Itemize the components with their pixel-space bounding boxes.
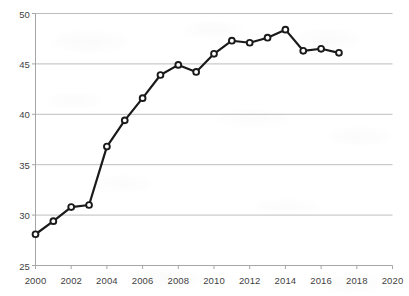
chart-container: 253035404550 200020022004200620082010201…	[0, 0, 409, 296]
x-tick-label-2014: 2014	[275, 275, 297, 286]
data-point-2001	[50, 218, 56, 224]
x-tick-label-2012: 2012	[239, 275, 261, 286]
x-tick-label-2000: 2000	[25, 275, 47, 286]
y-tick-label-25: 25	[8, 260, 30, 271]
x-tick-label-2020: 2020	[382, 275, 404, 286]
data-point-2002	[68, 204, 74, 210]
x-tick-label-2010: 2010	[203, 275, 225, 286]
data-point-2012	[247, 40, 253, 46]
x-tick-label-2002: 2002	[60, 275, 82, 286]
data-point-2010	[211, 51, 217, 57]
data-point-2003	[86, 202, 92, 208]
data-point-2005	[122, 117, 128, 123]
y-tick-label-30: 30	[8, 210, 30, 221]
x-tick-label-2004: 2004	[96, 275, 118, 286]
x-tick-label-2018: 2018	[346, 275, 368, 286]
data-point-2004	[104, 144, 110, 150]
data-point-2015	[300, 48, 306, 54]
y-tick-label-35: 35	[8, 159, 30, 170]
data-point-2013	[265, 35, 271, 41]
y-tick-label-45: 45	[8, 58, 30, 69]
x-tick-label-2008: 2008	[168, 275, 190, 286]
series-line-1	[36, 30, 339, 235]
data-point-2017	[336, 50, 342, 56]
data-point-2006	[140, 95, 146, 101]
y-tick-label-40: 40	[8, 109, 30, 120]
data-point-2007	[158, 72, 164, 78]
y-tick-label-50: 50	[8, 8, 30, 19]
data-series-line	[36, 30, 339, 235]
data-point-2011	[229, 38, 235, 44]
line-chart-plot	[0, 0, 409, 296]
data-point-2008	[175, 62, 181, 68]
x-axis-tick-marks	[36, 266, 393, 270]
gridlines	[36, 14, 393, 216]
data-point-2009	[193, 69, 199, 75]
data-point-2000	[33, 231, 39, 237]
data-point-2014	[283, 27, 289, 33]
x-tick-label-2016: 2016	[310, 275, 332, 286]
data-point-2016	[318, 46, 324, 52]
x-tick-label-2006: 2006	[132, 275, 154, 286]
